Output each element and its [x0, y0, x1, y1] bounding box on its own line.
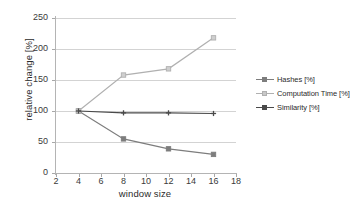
legend-label-computation-time: Computation Time [%]	[277, 89, 350, 98]
legend-marker-similarity-icon	[256, 103, 274, 113]
chart-legend: Hashes [%] Computation Time [%] Similari…	[256, 74, 361, 116]
legend-marker-computation-time-icon	[256, 89, 274, 99]
series-similarity	[76, 108, 216, 116]
legend-label-hashes: Hashes [%]	[277, 75, 315, 84]
legend-item-computation-time[interactable]: Computation Time [%]	[256, 88, 361, 99]
legend-marker-hashes-icon	[256, 75, 274, 85]
x-axis-title: window size	[50, 188, 240, 199]
legend-item-similarity[interactable]: Similarity [%]	[256, 102, 361, 113]
legend-label-similarity: Similarity [%]	[277, 103, 320, 112]
legend-item-hashes[interactable]: Hashes [%]	[256, 74, 361, 85]
series-computation-time	[76, 36, 215, 114]
chart-container: relative change [%] 05010015020025024681…	[0, 0, 363, 208]
series-hashes	[76, 109, 215, 157]
